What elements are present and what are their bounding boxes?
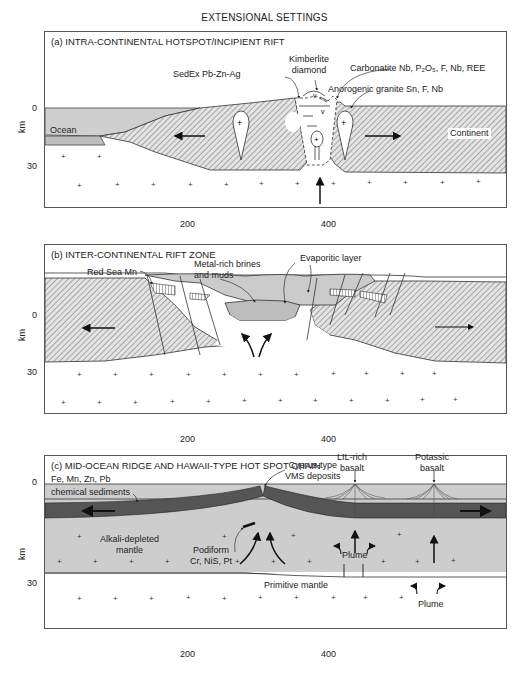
svg-text:+: + [397, 530, 402, 539]
svg-text:v: v [321, 108, 325, 115]
svg-text:+: + [453, 395, 458, 404]
panel-c: (c) MID-OCEAN RIDGE AND HAWAII-TYPE HOT … [44, 455, 507, 629]
svg-text:+: + [385, 396, 390, 405]
svg-text:+: + [61, 152, 66, 161]
panel-b-x-400: 400 [321, 434, 336, 444]
panel-a-x-400: 400 [321, 219, 336, 229]
label-ocean: Ocean [50, 125, 77, 136]
label-evaporitic: Evaporitic layer [300, 253, 362, 264]
svg-text:+: + [415, 557, 420, 566]
svg-text:+: + [363, 593, 368, 602]
svg-text:+: + [113, 370, 118, 379]
svg-text:+: + [133, 398, 138, 407]
label-continent: Continent [448, 128, 491, 139]
label-sedex: SedEx Pb-Zn-Ag [173, 69, 241, 80]
svg-text:+: + [93, 557, 98, 566]
svg-text:+: + [364, 369, 369, 378]
svg-text:+: + [115, 180, 120, 189]
svg-text:+: + [440, 178, 445, 187]
svg-text:v: v [313, 92, 317, 99]
panel-b-km-label: km [17, 329, 27, 341]
svg-text:+: + [222, 532, 227, 541]
svg-text:+: + [291, 531, 296, 540]
panel-c-depth-0: 0 [32, 477, 37, 487]
label-potassic-basalt: Potassicbasalt [415, 452, 449, 474]
svg-text:+: + [314, 135, 319, 144]
panel-a-depth-30: 30 [27, 161, 37, 171]
svg-text:+: + [258, 593, 263, 602]
label-podiform: PodiformCr, NiS, Pt [190, 545, 232, 567]
label-alkali-depleted-mantle: Alkali-depletedmantle [100, 534, 159, 556]
svg-text:+: + [224, 180, 229, 189]
svg-text:+: + [432, 369, 437, 378]
svg-text:+: + [278, 396, 283, 405]
label-granite: Anorogenic granite Sn, F, Nb [328, 84, 443, 95]
svg-text:+: + [77, 370, 82, 379]
svg-text:+: + [258, 370, 263, 379]
svg-text:+: + [165, 557, 170, 566]
panel-b-depth-0: 0 [32, 310, 37, 320]
panel-a-cross-section: v v + + + ++ ++++++++++++ +++ [45, 32, 506, 207]
svg-text:+: + [57, 557, 62, 566]
panel-b-depth-30: 30 [27, 367, 37, 377]
svg-text:+: + [367, 178, 372, 187]
svg-text:+: + [77, 532, 82, 541]
svg-text:+: + [149, 370, 154, 379]
svg-text:+: + [331, 369, 336, 378]
svg-text:+: + [170, 397, 175, 406]
svg-text:+: + [381, 557, 386, 566]
svg-text:+: + [235, 557, 240, 566]
label-plume-upper: Plume [342, 550, 368, 561]
panel-c-km-label: km [17, 548, 27, 560]
svg-text:+: + [313, 396, 318, 405]
svg-text:+: + [222, 594, 227, 603]
panel-a-km-label: km [17, 121, 27, 133]
svg-text:+: + [307, 557, 312, 566]
label-kimberlite: Kimberlitediamond [289, 54, 329, 76]
svg-text:+: + [476, 177, 481, 186]
label-lil-basalt: LIL-richbasalt [337, 452, 367, 474]
panel-c-depth-30: 30 [27, 578, 37, 588]
svg-text:+: + [294, 593, 299, 602]
svg-text:+: + [403, 178, 408, 187]
svg-text:+: + [259, 179, 264, 188]
panel-c-x-400: 400 [321, 649, 336, 659]
svg-text:+: + [242, 396, 247, 405]
label-primitive-mantle: Primitive mantle [264, 580, 328, 591]
svg-text:+: + [451, 556, 456, 565]
svg-text:+: + [331, 593, 336, 602]
panel-b-x-200: 200 [180, 434, 195, 444]
panel-a-depth-0: 0 [32, 103, 37, 113]
svg-text:+: + [271, 557, 276, 566]
svg-text:+: + [77, 594, 82, 603]
panel-a-x-200: 200 [180, 219, 195, 229]
svg-text:+: + [186, 593, 191, 602]
label-carbonatite: Carbonatite Nb, P₂O₅, F, Nb, REE [350, 63, 485, 74]
panel-b: (b) INTER-CONTINENTAL RIFT ZONE [44, 244, 507, 414]
svg-text:+: + [97, 398, 102, 407]
panel-c-x-200: 200 [180, 649, 195, 659]
svg-text:+: + [294, 370, 299, 379]
svg-text:+: + [341, 118, 346, 128]
figure-title: EXTENSIONAL SETTINGS [0, 12, 529, 23]
svg-text:+: + [349, 396, 354, 405]
svg-text:+: + [400, 369, 405, 378]
svg-text:+: + [77, 181, 82, 190]
svg-text:+: + [222, 370, 227, 379]
svg-text:+: + [186, 370, 191, 379]
panel-a: (a) INTRA-CONTINENTAL HOTSPOT/INCIPIENT … [44, 31, 507, 208]
svg-text:+: + [188, 180, 193, 189]
svg-text:+: + [149, 594, 154, 603]
label-red-sea: Red Sea Mn [87, 267, 137, 278]
label-brines: Metal-rich brinesand muds [194, 259, 261, 281]
svg-text:+: + [206, 397, 211, 406]
svg-text:+: + [237, 118, 242, 128]
svg-text:+: + [331, 179, 336, 188]
svg-text:+: + [113, 594, 118, 603]
svg-text:+: + [151, 180, 156, 189]
label-chemical-sediments: chemical sediments [51, 487, 130, 498]
label-cyprus-vms: Cyprus-typeVMS deposits [285, 460, 341, 482]
svg-text:+: + [129, 557, 134, 566]
label-fe-mn-zn-pb: Fe, Mn, Zn, Pb [51, 474, 111, 485]
svg-text:+: + [399, 593, 404, 602]
